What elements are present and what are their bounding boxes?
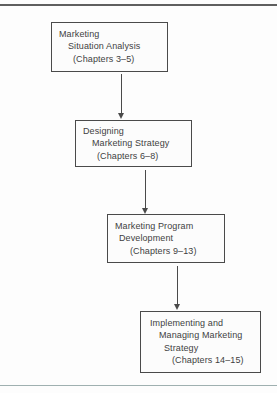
arrow-shaft: [177, 266, 178, 304]
box-line: Strategy: [150, 342, 257, 354]
top-rule: [0, 4, 277, 6]
box-line: Designing: [83, 125, 188, 137]
down-arrow: [174, 266, 181, 310]
down-arrow: [118, 74, 125, 119]
arrow-shaft: [145, 170, 146, 208]
box-line: Situation Analysis: [59, 40, 164, 52]
box-line: (Chapters 6–8): [83, 150, 188, 162]
box-line: (Chapters 9–13): [115, 245, 221, 257]
down-arrow: [142, 170, 149, 214]
box-line: Managing Marketing: [150, 329, 257, 341]
arrow-head-icon: [174, 304, 180, 310]
box-line: Marketing Strategy: [83, 137, 188, 149]
box-line: Implementing and: [150, 317, 257, 329]
box-line: Marketing Program: [115, 220, 221, 232]
flow-box-program-development: Marketing Program Development (Chapters …: [107, 214, 225, 263]
box-line: Marketing: [59, 28, 164, 40]
flowchart-page: Marketing Situation Analysis (Chapters 3…: [0, 0, 277, 393]
flow-box-situation-analysis: Marketing Situation Analysis (Chapters 3…: [51, 22, 168, 72]
box-line: Development: [115, 232, 221, 244]
arrow-shaft: [121, 74, 122, 113]
bottom-rule: [0, 385, 277, 386]
flow-box-implementing-managing: Implementing and Managing Marketing Stra…: [140, 311, 261, 373]
arrow-head-icon: [118, 113, 124, 119]
box-line: (Chapters 14–15): [150, 354, 257, 366]
box-line: (Chapters 3–5): [59, 53, 164, 65]
flow-box-designing-strategy: Designing Marketing Strategy (Chapters 6…: [75, 120, 192, 167]
